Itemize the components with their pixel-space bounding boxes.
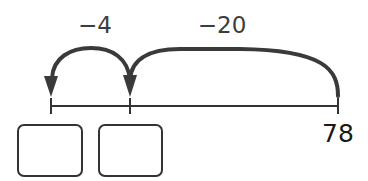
jump-arc-large <box>130 49 338 96</box>
arrowhead-down-icon <box>44 76 58 97</box>
answer-box-middle[interactable] <box>98 124 163 177</box>
number-line <box>51 98 338 114</box>
jump-arc-small <box>52 48 130 80</box>
jump-label-minus-4: −4 <box>78 14 112 37</box>
tick-label-78: 78 <box>322 121 354 146</box>
answer-box-left[interactable] <box>17 124 83 177</box>
jump-label-minus-20: −20 <box>198 14 247 37</box>
jump-arrow-minus-20 <box>123 49 338 97</box>
jump-arrow-minus-4 <box>44 48 130 97</box>
